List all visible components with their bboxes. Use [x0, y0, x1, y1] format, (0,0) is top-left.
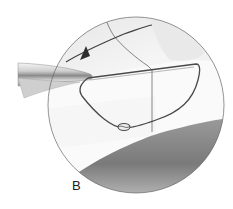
scope-view	[40, 10, 233, 209]
panel-label: B	[72, 179, 81, 192]
arthroscopic-illustration: B	[0, 0, 233, 209]
